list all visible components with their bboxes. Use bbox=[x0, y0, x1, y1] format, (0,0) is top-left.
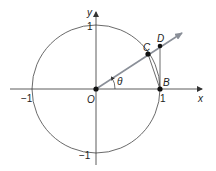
unit-circle-diagram: y 1 −1 O 1 x −1 C D B θ bbox=[0, 0, 216, 171]
tick-x-pos: 1 bbox=[160, 93, 166, 104]
point-origin bbox=[93, 86, 98, 91]
label-b: B bbox=[163, 77, 170, 88]
angle-arc-icon bbox=[112, 78, 115, 89]
tick-y-neg: −1 bbox=[79, 150, 91, 161]
point-b bbox=[157, 86, 162, 91]
x-axis-label: x bbox=[197, 93, 204, 104]
tick-x-neg: −1 bbox=[21, 93, 33, 104]
chord-cb bbox=[148, 54, 160, 89]
label-theta: θ bbox=[117, 76, 123, 87]
label-d: D bbox=[157, 33, 164, 44]
point-d bbox=[158, 44, 163, 49]
tick-y-pos: 1 bbox=[87, 21, 93, 32]
y-axis-label: y bbox=[86, 7, 93, 18]
label-origin: O bbox=[87, 94, 95, 105]
label-c: C bbox=[143, 42, 151, 53]
